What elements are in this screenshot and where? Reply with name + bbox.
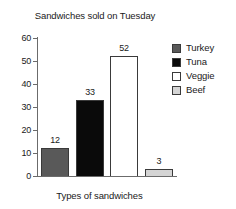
legend-label: Beef (186, 85, 205, 95)
y-axis-tick (33, 176, 37, 177)
y-axis-tick-label-wrap: 0 (0, 172, 31, 181)
y-axis-tick-label-wrap: 10 (0, 149, 31, 158)
legend-label: Turkey (186, 43, 214, 53)
legend-swatch-icon (172, 86, 181, 95)
y-axis-tick-label: 30 (1, 103, 31, 112)
y-axis-tick-label-wrap: 50 (0, 57, 31, 66)
legend-item-tuna[interactable]: Tuna (172, 55, 214, 69)
plot-area: 1233523 (38, 38, 176, 176)
y-axis-tick-label-wrap: 60 (0, 34, 31, 43)
legend-label: Tuna (186, 57, 207, 67)
y-axis-tick (33, 153, 37, 154)
legend-item-beef[interactable]: Beef (172, 83, 214, 97)
bar-beef[interactable] (145, 169, 173, 176)
bar-value-label-turkey: 12 (35, 136, 75, 145)
x-axis-title: Types of sandwiches (22, 190, 177, 201)
y-axis-tick (33, 130, 37, 131)
legend-label: Veggie (186, 71, 214, 81)
legend-swatch-icon (172, 44, 181, 53)
y-axis-tick-label-wrap: 30 (0, 103, 31, 112)
bar-chart: Sandwiches sold on Tuesday 0102030405060… (0, 0, 236, 209)
bar-turkey[interactable] (41, 148, 69, 176)
y-axis-tick-label-wrap: 20 (0, 126, 31, 135)
y-axis-tick (33, 107, 37, 108)
y-axis-tick-label: 10 (1, 149, 31, 158)
y-axis-tick-label: 0 (1, 172, 31, 181)
legend-item-veggie[interactable]: Veggie (172, 69, 214, 83)
y-axis-tick-label: 60 (1, 34, 31, 43)
y-axis-tick (33, 84, 37, 85)
bar-veggie[interactable] (110, 56, 138, 176)
legend-item-turkey[interactable]: Turkey (172, 41, 214, 55)
bar-tuna[interactable] (76, 100, 104, 176)
x-axis-line (37, 176, 177, 177)
y-axis-tick-label: 40 (1, 80, 31, 89)
bar-value-label-tuna: 33 (70, 88, 110, 97)
y-axis-tick-label: 20 (1, 126, 31, 135)
y-axis-tick-label-wrap: 40 (0, 80, 31, 89)
bar-value-label-veggie: 52 (104, 44, 144, 53)
y-axis-tick (33, 38, 37, 39)
bar-value-label-beef: 3 (139, 157, 179, 166)
chart-title: Sandwiches sold on Tuesday (0, 10, 190, 21)
legend-swatch-icon (172, 72, 181, 81)
y-axis-tick (33, 61, 37, 62)
y-axis-tick-label: 50 (1, 57, 31, 66)
chart-legend: TurkeyTunaVeggieBeef (172, 41, 214, 97)
legend-swatch-icon (172, 58, 181, 67)
